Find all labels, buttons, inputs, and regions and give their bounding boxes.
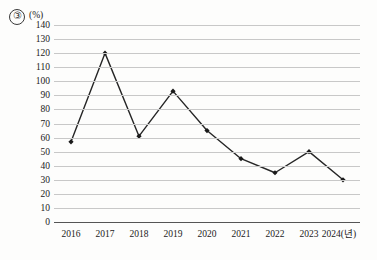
gridline <box>54 138 360 139</box>
x-axis-tick-label: 2024(년) <box>322 229 356 240</box>
y-axis-tick-label: 50 <box>41 147 51 157</box>
figure-number-marker: ③ <box>9 9 25 25</box>
y-axis-tick-label: 100 <box>36 76 50 86</box>
y-axis-tick-label: 0 <box>45 217 50 227</box>
x-axis-tick-label: 2021 <box>232 229 251 240</box>
y-axis-tick-label: 10 <box>41 203 51 213</box>
y-axis-tick-label: 130 <box>36 34 50 44</box>
gridline <box>54 208 360 209</box>
gridline <box>54 124 360 125</box>
y-axis-tick-label: 40 <box>41 161 51 171</box>
y-axis-tick-label: 60 <box>41 133 51 143</box>
chart-figure: ③ (%) 1401301201101009080706050403020100… <box>0 0 377 260</box>
y-axis-tick-label: 20 <box>41 189 51 199</box>
x-axis-tick-label: 2023 <box>300 229 319 240</box>
gridline <box>54 39 360 40</box>
gridline <box>54 53 360 54</box>
y-axis-tick-label: 140 <box>36 20 50 30</box>
gridline <box>54 95 360 96</box>
gridline <box>54 25 360 26</box>
y-axis-tick-label: 80 <box>41 104 51 114</box>
series-line <box>71 53 343 180</box>
gridline <box>54 194 360 195</box>
x-axis-tick-label: 2020 <box>198 229 217 240</box>
y-axis-tick-label: 30 <box>41 175 51 185</box>
gridline <box>54 81 360 82</box>
y-axis-tick-label: 70 <box>41 119 51 129</box>
gridline <box>54 166 360 167</box>
y-axis-tick-label: 90 <box>41 90 51 100</box>
gridline <box>54 180 360 181</box>
gridline <box>54 152 360 153</box>
gridline <box>54 67 360 68</box>
y-axis-tick-label: 120 <box>36 48 50 58</box>
plot-area: 1401301201101009080706050403020100201620… <box>54 25 360 222</box>
x-axis-tick-label: 2017 <box>96 229 115 240</box>
x-axis-baseline <box>54 222 360 223</box>
x-axis-tick-label: 2016 <box>62 229 81 240</box>
x-axis-tick-label: 2019 <box>164 229 183 240</box>
x-axis-tick-label: 2022 <box>266 229 285 240</box>
y-axis-tick-label: 110 <box>36 62 50 72</box>
gridline <box>54 109 360 110</box>
x-axis-tick-label: 2018 <box>130 229 149 240</box>
data-point-marker <box>68 139 73 144</box>
